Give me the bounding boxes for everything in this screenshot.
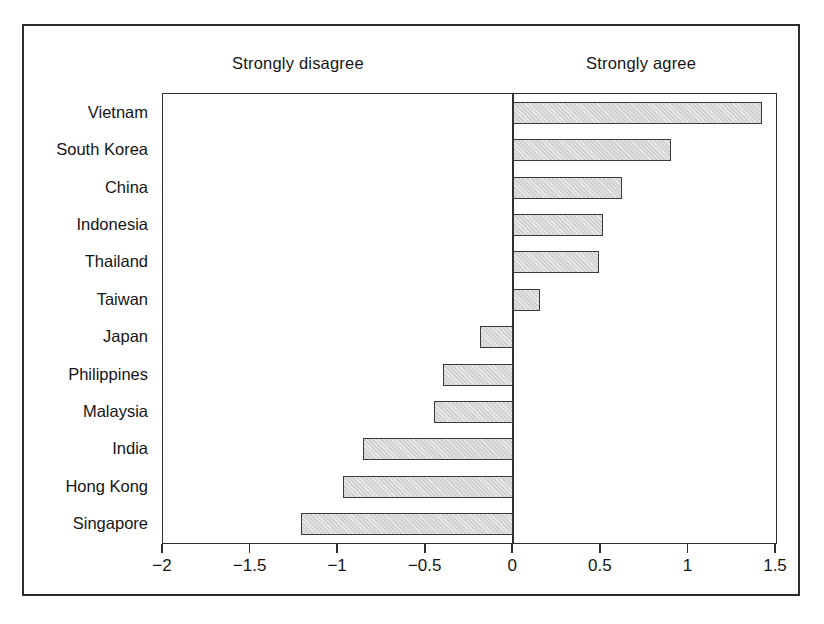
x-tick-label: −0.5	[408, 556, 442, 576]
x-tick-mark	[511, 544, 513, 553]
bar	[363, 438, 514, 460]
category-label: Taiwan	[97, 291, 148, 308]
x-tick-label: 1.5	[763, 556, 787, 576]
bars-layer	[163, 94, 776, 543]
x-axis: −2−1.5−1−0.500.511.5	[162, 544, 777, 590]
x-tick-mark	[599, 544, 601, 553]
category-label: South Korea	[56, 141, 148, 158]
x-tick-label: 1	[683, 556, 692, 576]
category-axis: VietnamSouth KoreaChinaIndonesiaThailand…	[22, 93, 156, 544]
bar	[513, 139, 671, 161]
x-tick-label: 0.5	[588, 556, 612, 576]
bar	[513, 177, 622, 199]
anchor-label-strongly-agree: Strongly agree	[586, 54, 696, 73]
category-label: Vietnam	[88, 103, 148, 120]
x-tick-mark	[249, 544, 251, 553]
category-label: Hong Kong	[65, 478, 148, 495]
bar	[513, 102, 762, 124]
bar	[480, 326, 513, 348]
x-tick-label: −2	[152, 556, 171, 576]
bar	[301, 513, 513, 535]
x-tick-mark	[336, 544, 338, 553]
bar	[434, 401, 513, 423]
plot-area	[162, 93, 777, 544]
x-tick-label: 0	[508, 556, 517, 576]
x-tick-label: −1	[327, 556, 346, 576]
category-label: Malaysia	[83, 403, 148, 420]
zero-baseline	[512, 94, 514, 543]
category-label: China	[105, 178, 148, 195]
x-tick-mark	[424, 544, 426, 553]
category-label: Thailand	[85, 253, 148, 270]
bar	[513, 251, 599, 273]
bar	[443, 364, 513, 386]
category-label: Indonesia	[76, 216, 148, 233]
category-label: Philippines	[68, 365, 148, 382]
x-tick-mark	[687, 544, 689, 553]
bar	[343, 476, 513, 498]
x-tick-label: −1.5	[233, 556, 267, 576]
bar	[513, 214, 602, 236]
category-label: Japan	[103, 328, 148, 345]
x-tick-mark	[161, 544, 163, 553]
category-label: India	[112, 440, 148, 457]
anchor-label-strongly-disagree: Strongly disagree	[232, 54, 364, 73]
figure-frame: Strongly disagree Strongly agree Vietnam…	[22, 24, 800, 596]
category-label: Singapore	[73, 515, 148, 532]
x-tick-mark	[774, 544, 776, 553]
bar	[513, 289, 539, 311]
